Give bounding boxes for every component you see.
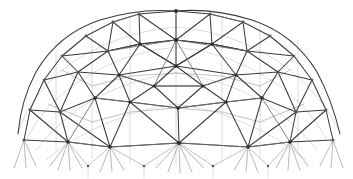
dome-joint-node — [61, 55, 64, 58]
dome-joint-node — [174, 38, 178, 42]
dome-joint-node — [152, 84, 155, 87]
dome-joint-node — [246, 50, 249, 53]
dome-joint-node — [85, 35, 88, 38]
dome-joint-node — [107, 50, 110, 53]
dome-joint-node — [210, 42, 213, 45]
dome-joint-node — [332, 139, 335, 142]
dome-joint-node — [201, 84, 204, 87]
dome-joint-node — [87, 165, 89, 167]
dome-joint-node — [77, 71, 80, 74]
dome-joint-node — [311, 79, 314, 82]
dome-joint-node — [59, 111, 62, 114]
geodesic-dome-wireframe — [0, 0, 353, 179]
dome-joint-node — [108, 145, 111, 148]
dome-illustration — [0, 0, 353, 179]
dome-joint-node — [177, 141, 181, 145]
dome-joint-node — [143, 165, 146, 168]
dome-joint-node — [43, 79, 46, 82]
dome-joint-node — [112, 21, 115, 24]
dome-joint-node — [128, 100, 131, 103]
dome-joint-node — [138, 13, 141, 16]
dome-joint-node — [176, 106, 179, 109]
dome-joint-node — [174, 9, 178, 13]
dome-joint-node — [288, 140, 292, 144]
dome-joint-node — [66, 140, 70, 144]
dome-joint-node — [267, 165, 269, 167]
dome-joint-node — [234, 73, 237, 76]
dome-joint-node — [325, 109, 328, 112]
dome-joint-node — [260, 96, 263, 99]
dome-joint-node — [269, 35, 272, 38]
dome-joint-node — [138, 42, 141, 45]
dome-joint-node — [23, 139, 26, 142]
dome-joint-node — [29, 109, 32, 112]
dome-joint-node — [209, 13, 212, 16]
dome-joint-node — [174, 64, 177, 67]
dome-joint-node — [246, 145, 249, 148]
dome-joint-node — [277, 71, 280, 74]
dome-joint-node — [224, 100, 227, 103]
dome-joint-node — [212, 165, 215, 168]
dome-joint-node — [293, 55, 296, 58]
dome-joint-node — [295, 111, 298, 114]
dome-joint-node — [242, 21, 245, 24]
dome-joint-node — [93, 96, 96, 99]
dome-joint-node — [117, 73, 120, 76]
